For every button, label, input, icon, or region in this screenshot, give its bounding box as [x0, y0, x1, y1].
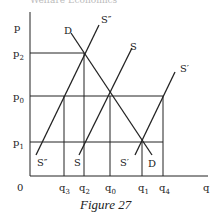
p0-label: p0 — [13, 91, 24, 105]
p1-label: p1 — [13, 137, 24, 151]
s-double-prime-bottom-label: S″ — [37, 157, 48, 168]
supply-curve-s-double-prime — [36, 25, 99, 155]
supply-curve-s — [79, 48, 132, 155]
s-bottom-label: S — [74, 157, 81, 168]
s-double-prime-top-label: S″ — [101, 14, 112, 25]
y-axis-label: p — [14, 22, 20, 33]
figure-caption: Figure 27 — [79, 197, 132, 212]
origin-label: 0 — [17, 182, 23, 193]
demand-curve-d — [71, 33, 152, 155]
cut-off-heading: Welfare Economics — [30, 0, 118, 5]
q3-label: q3 — [59, 182, 70, 196]
p2-label: p2 — [13, 48, 24, 62]
supply-demand-diagram: Welfare Economics p q 0 D D S S S″ S″ S′… — [0, 0, 219, 219]
q0-label: q0 — [105, 182, 116, 196]
supply-curve-s-prime — [135, 72, 175, 155]
q2-label: q2 — [79, 182, 90, 196]
s-prime-top-label: S′ — [180, 63, 190, 74]
s-prime-bottom-label: S′ — [120, 157, 130, 168]
q1-label: q1 — [138, 182, 149, 196]
s-top-label: S — [130, 41, 137, 52]
x-axis-label: q — [203, 182, 210, 193]
q4-label: q4 — [159, 182, 170, 196]
demand-bottom-label: D — [148, 158, 156, 169]
demand-top-label: D — [64, 25, 72, 36]
